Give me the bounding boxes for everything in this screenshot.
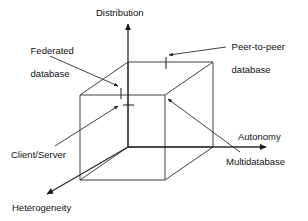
cube-back-face xyxy=(128,62,213,147)
callout-label-peer-to-peer-database: Peer-to-peer database xyxy=(221,29,285,87)
callout-federated-line1: Federated xyxy=(31,45,74,56)
axis-label-heterogeneity: Heterogeneity xyxy=(12,202,71,213)
leader-multidatabase xyxy=(168,99,240,152)
leader-peer-to-peer-database xyxy=(169,47,226,55)
cube-edge-bottom-left xyxy=(80,147,128,180)
figure-container: Distribution Autonomy Heterogeneity Fede… xyxy=(0,0,308,221)
cube-edge-top-right xyxy=(165,62,213,95)
callout-label-client-server: Client/Server xyxy=(11,149,66,160)
callout-peer-to-peer-line1: Peer-to-peer xyxy=(232,41,285,52)
callout-label-federated-database: Federated database xyxy=(20,33,74,91)
axis-label-autonomy: Autonomy xyxy=(238,131,281,142)
axis-label-distribution: Distribution xyxy=(96,7,144,18)
callout-label-multidatabase: Multidatabase xyxy=(226,156,285,167)
cube-edge-bottom-right xyxy=(165,147,213,180)
callout-federated-line2: database xyxy=(31,68,70,79)
leader-client-server xyxy=(55,106,118,146)
callout-peer-to-peer-line2: database xyxy=(232,64,271,75)
cube-wireframe xyxy=(80,62,213,180)
